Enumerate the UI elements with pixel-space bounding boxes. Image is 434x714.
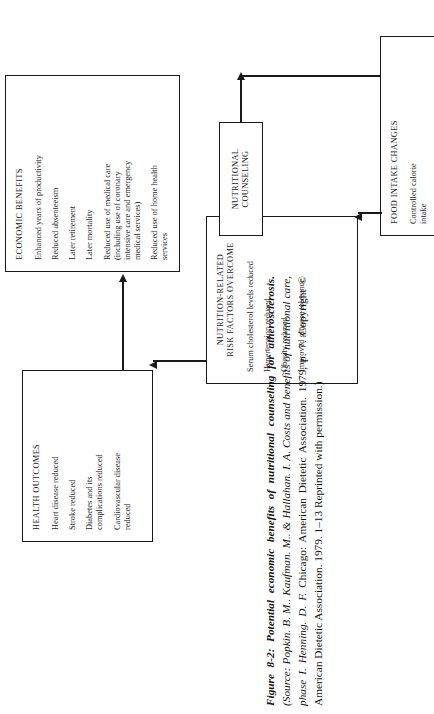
list-item: Reduced absenteeism (51, 86, 61, 260)
box-nutrition-related-risk-factors-title: NUTRITION-RELATED RISK FACTORS OVERCOME (216, 227, 237, 372)
box-economic-benefits: ECONOMIC BENEFITS Enhanced years of prod… (5, 75, 180, 272)
list-item: Later mortality (85, 86, 95, 260)
list-item: Reduced use of medical care (including u… (103, 86, 143, 260)
arrowhead-risk-to-health (149, 361, 157, 369)
connector-counseling-to-food (240, 76, 242, 122)
figure-canvas: HEALTH OUTCOMES Heart disease reduced St… (0, 0, 434, 714)
list-item: Heart disease reduced (51, 381, 61, 530)
list-item: Cardiovascular disease reduced (113, 381, 133, 530)
box-economic-benefits-title: ECONOMIC BENEFITS (15, 86, 25, 260)
box-food-intake-changes: FOOD INTAKE CHANGES Controlled calorie i… (380, 36, 434, 236)
list-item: Later retirement (68, 86, 78, 260)
list-item: Enhanced years of productivity (34, 86, 44, 260)
box-health-outcomes: HEALTH OUTCOMES Heart disease reduced St… (22, 370, 153, 542)
figure-source-authors: Popkin. B. M.. Kaufman. M.. & Hallahan. … (280, 451, 292, 665)
connector-health-to-economic (122, 280, 124, 370)
figure-title: Potential economic benefits of nutrition… (264, 276, 276, 642)
list-item: Controlled calorie intake (409, 47, 429, 224)
figure-source-editor: Henning. D. F. (296, 593, 308, 669)
figure-source-prefix: (Source: (280, 664, 292, 706)
box-nutritional-counseling: NUTRITIONAL COUNSELING (219, 122, 263, 236)
figure-number: Figure 8-2: (264, 649, 276, 706)
list-item: Reduced use of home health services (150, 86, 170, 260)
caption-line: Figure 8-2: Potential economic benefits … (262, 276, 326, 706)
arrowhead-health-to-economic (119, 274, 127, 282)
connector-counseling-to-food-riser (240, 75, 380, 77)
connector-risk-to-health-riser (153, 360, 206, 362)
list-item: Serum cholesterol levels reduced (246, 227, 256, 372)
box-nutritional-counseling-title: NUTRITIONAL COUNSELING (231, 123, 252, 235)
arrowhead-food-to-risk (354, 213, 362, 221)
box-health-outcomes-title: HEALTH OUTCOMES (32, 381, 42, 530)
list-item: Stroke reduced (68, 381, 78, 530)
list-item: Diabetes and its complications reduced (85, 381, 105, 530)
figure-caption: Figure 8-2: Potential economic benefits … (262, 276, 326, 706)
box-food-intake-changes-title: FOOD INTAKE CHANGES (390, 47, 400, 224)
